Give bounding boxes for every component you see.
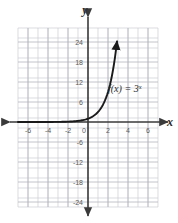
x-tick-label-neg2: -2 [65, 127, 71, 134]
y-tick-label-18: 18 [75, 59, 83, 66]
x-tick-label-2: 2 [106, 127, 110, 134]
y-tick-label-neg24: -24 [73, 199, 83, 206]
y-tick-label-neg18: -18 [73, 179, 83, 186]
function-annotation: f(x) = 3x [108, 83, 142, 96]
y-tick-label-6: 6 [79, 99, 83, 106]
y-tick-label-neg6: -6 [77, 139, 83, 146]
function-annotation-exponent: x [138, 83, 142, 90]
y-axis-label: y [80, 3, 88, 17]
y-tick-label-neg12: -12 [73, 159, 83, 166]
exponential-function-graph: y x -6 -4 -2 0 2 4 6 24 18 12 6 -6 -12 -… [0, 0, 178, 223]
function-annotation-text: f(x) = 3 [108, 83, 139, 95]
graph-background [0, 0, 178, 223]
x-axis-label: x [166, 115, 173, 129]
x-tick-label-0: 0 [82, 127, 86, 134]
x-tick-label-4: 4 [126, 127, 130, 134]
x-tick-label-neg4: -4 [45, 127, 51, 134]
x-tick-label-neg6: -6 [25, 127, 31, 134]
x-tick-label-6: 6 [146, 127, 150, 134]
y-tick-label-24: 24 [75, 39, 83, 46]
y-tick-label-12: 12 [75, 79, 83, 86]
graph-canvas: y x -6 -4 -2 0 2 4 6 24 18 12 6 -6 -12 -… [0, 0, 178, 223]
